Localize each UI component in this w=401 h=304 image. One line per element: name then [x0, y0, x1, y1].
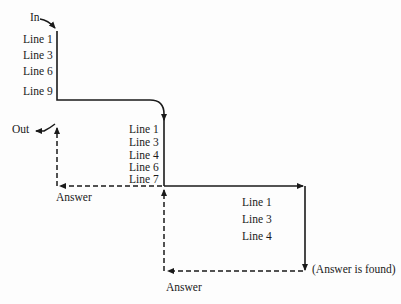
in-label: In — [30, 12, 40, 24]
level-3-line: Line 1 — [242, 197, 272, 209]
level-2-line: Line 4 — [129, 150, 159, 162]
level-1-line: Line 6 — [23, 66, 53, 78]
answer-found-label: (Answer is found) — [312, 264, 396, 276]
in-arrow — [40, 19, 55, 28]
answer-label-1: Answer — [56, 192, 92, 204]
level-1-line: Line 9 — [23, 86, 53, 98]
answer-label-2: Answer — [166, 282, 202, 294]
level-3-line: Line 4 — [242, 231, 272, 243]
level-2-line: Line 3 — [129, 137, 159, 149]
level-2-line: Line 7 — [129, 174, 159, 186]
level-1-line: Line 3 — [23, 50, 53, 62]
diagram-lines — [0, 0, 401, 304]
call-path-1 — [57, 31, 164, 120]
out-label: Out — [12, 124, 29, 136]
level-2-line: Line 1 — [129, 124, 159, 136]
recursion-flow-diagram: In Out Line 1 Line 3 Line 6 Line 9 Line … — [0, 0, 401, 304]
level-1-line: Line 1 — [23, 34, 53, 46]
level-3-line: Line 3 — [242, 214, 272, 226]
level-2-line: Line 6 — [129, 162, 159, 174]
out-arrow — [36, 124, 55, 131]
